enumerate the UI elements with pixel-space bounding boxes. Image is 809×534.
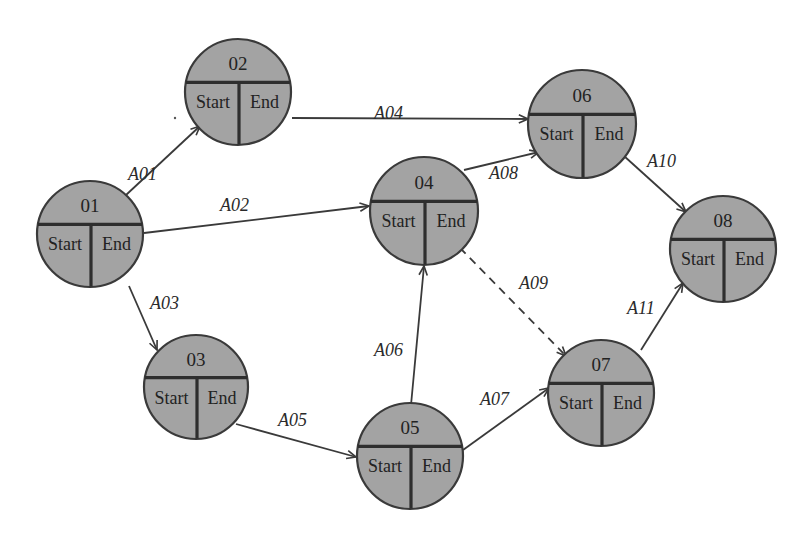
edge-a02 (144, 206, 369, 233)
node-id-label: 08 (714, 210, 733, 231)
network-diagram: 01StartEnd02StartEnd03StartEnd04StartEnd… (0, 0, 809, 534)
edge-a01 (126, 126, 200, 195)
node-end-label: End (102, 234, 131, 254)
edge-arrow-a09 (460, 248, 566, 356)
edge-label-a11: A11 (626, 298, 655, 318)
node-id-label: 07 (592, 354, 611, 375)
node-start-label: Start (540, 124, 574, 144)
node-end-label: End (735, 249, 764, 269)
node-id-label: 01 (81, 195, 100, 216)
node-start-label: Start (681, 249, 715, 269)
edge-arrow-a01 (126, 126, 200, 195)
edge-a06 (411, 266, 424, 405)
edge-arrow-a06 (411, 266, 424, 405)
node-end-label: End (437, 211, 466, 231)
node-start-label: Start (196, 92, 230, 112)
node-id-label: 05 (401, 417, 420, 438)
node-04: 04StartEnd (370, 157, 478, 265)
edge-label-a01: A01 (127, 164, 157, 184)
node-07: 07StartEnd (548, 340, 654, 446)
edge-label-a09: A09 (518, 273, 548, 293)
node-start-label: Start (48, 234, 82, 254)
node-id-label: 03 (187, 349, 206, 370)
node-start-label: Start (155, 388, 189, 408)
node-start-label: Start (382, 211, 416, 231)
node-end-label: End (422, 456, 451, 476)
edge-label-a04: A04 (373, 103, 403, 123)
node-id-label: 04 (415, 172, 435, 193)
node-02: 02StartEnd (185, 39, 291, 145)
node-01: 01StartEnd (37, 181, 143, 287)
node-id-label: 02 (229, 53, 248, 74)
node-08: 08StartEnd (670, 196, 776, 302)
nodes-layer: 01StartEnd02StartEnd03StartEnd04StartEnd… (37, 39, 776, 509)
node-end-label: End (250, 92, 279, 112)
node-end-label: End (208, 388, 237, 408)
node-start-label: Start (368, 456, 402, 476)
node-05: 05StartEnd (357, 403, 463, 509)
edge-label-a08: A08 (488, 163, 518, 183)
edge-label-a06: A06 (373, 340, 403, 360)
node-06: 06StartEnd (528, 70, 636, 178)
edge-a09 (460, 248, 566, 356)
node-start-label: Start (559, 393, 593, 413)
node-end-label: End (613, 393, 642, 413)
edge-label-a10: A10 (646, 151, 676, 171)
edge-label-a07: A07 (479, 389, 510, 409)
node-id-label: 06 (573, 85, 592, 106)
node-03: 03StartEnd (144, 335, 248, 439)
edge-label-a05: A05 (277, 410, 307, 430)
edge-a04 (292, 118, 528, 119)
stray-mark (174, 117, 176, 119)
edge-label-a03: A03 (149, 293, 179, 313)
edge-label-a02: A02 (219, 195, 249, 215)
node-end-label: End (595, 124, 624, 144)
edge-arrow-a04 (292, 118, 528, 119)
edge-arrow-a02 (144, 206, 369, 233)
